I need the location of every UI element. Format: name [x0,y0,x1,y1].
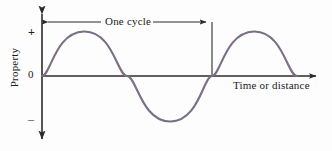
y-tick-positive-label: + [28,26,35,38]
y-tick-zero-label: 0 [28,69,34,80]
one-cycle-annotation-label: One cycle [103,16,153,27]
y-axis-label: Property [9,38,20,98]
diagram-canvas [0,0,332,151]
y-tick-negative-label: – [28,113,34,125]
wave-diagram: Property + 0 – One cycle Time or distanc… [0,0,332,151]
x-axis-label: Time or distance [233,80,310,91]
